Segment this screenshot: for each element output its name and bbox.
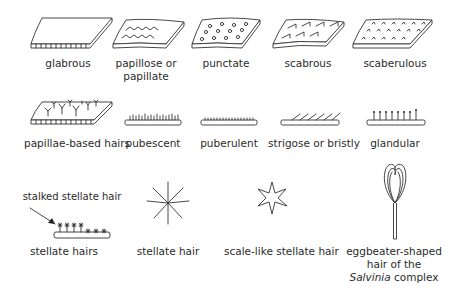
puberulent-label: puberulent: [196, 137, 262, 150]
papillae-based-hairs-icon: [28, 100, 118, 128]
strigose-item: [280, 110, 344, 128]
puberulent-hairs-icon: [200, 114, 260, 128]
eggbeater-label: eggbeater-shaped hair of the Salvinia co…: [344, 245, 444, 284]
stellate-hairs-item: [28, 204, 118, 244]
pubescent-label: pubescent: [122, 137, 184, 150]
papillae-based-hairs-label: papillae-based hairs: [24, 137, 130, 150]
pubescent-hairs-icon: [124, 110, 184, 128]
glabrous-surface-icon: [28, 14, 118, 50]
glandular-label: glandular: [364, 137, 426, 150]
scale-like-stellate-hair-item: [254, 180, 290, 216]
eggbeater-hair-icon: [380, 163, 410, 241]
scaberulous-label: scaberulous: [356, 57, 434, 70]
scabrous-label: scabrous: [272, 57, 344, 70]
puberulent-item: [200, 114, 260, 128]
stellate-hair-icon: [145, 180, 191, 226]
scabrous-item: [270, 14, 350, 50]
eggbeater-item: [380, 163, 410, 241]
stellate-hair-item: [145, 180, 191, 226]
scale-like-stellate-hair-icon: [254, 180, 290, 216]
stellate-hairs-label: stellate hairs: [28, 245, 100, 258]
stellate-hairs-icon: [28, 204, 118, 244]
stellate-hair-label: stellate hair: [136, 245, 200, 258]
scaberulous-item: [350, 14, 440, 50]
glabrous-label: glabrous: [28, 57, 108, 70]
strigose-hairs-icon: [280, 110, 344, 128]
stalked-stellate-hair-callout: stalked stellate hair: [22, 190, 122, 203]
strigose-label: strigose or bristly: [266, 137, 362, 150]
papillose-label: papillose or papillate: [104, 57, 188, 83]
pubescent-item: [124, 110, 184, 128]
punctate-label: punctate: [190, 57, 262, 70]
scaberulous-surface-icon: [350, 14, 440, 50]
papillose-item: [110, 14, 190, 50]
punctate-item: [190, 14, 270, 50]
glandular-item: [366, 108, 428, 128]
punctate-surface-icon: [190, 14, 270, 50]
scale-like-stellate-hair-label: scale-like stellate hair: [224, 245, 326, 258]
glandular-hairs-icon: [366, 108, 428, 128]
papillose-surface-icon: [110, 14, 190, 50]
glabrous-item: [28, 14, 118, 50]
papillae-based-hairs-item: [28, 100, 118, 128]
scabrous-surface-icon: [270, 14, 350, 50]
